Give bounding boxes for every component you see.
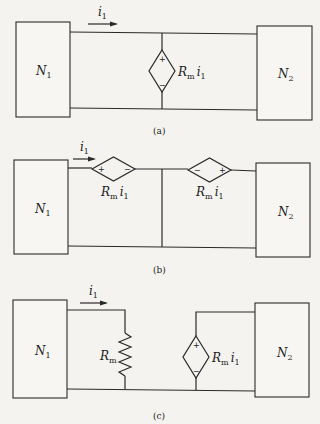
minus-sign: − [124, 165, 131, 174]
current-label: i1 [89, 284, 98, 300]
current-label: i1 [98, 5, 107, 21]
plus-sign: + [159, 55, 166, 64]
source-label: Rmi1 [177, 65, 206, 81]
resistor-label: Rm [99, 349, 117, 365]
figure-c: N1 N2 + − Rmi1 Rm i1 (c) [13, 284, 309, 421]
figure-a: N1 N2 + − Rmi1 i1 (a) [16, 5, 312, 136]
arrow-head-icon [100, 301, 108, 306]
minus-sign: − [159, 81, 166, 90]
caption-b: (b) [153, 265, 166, 275]
caption-c: (c) [153, 411, 165, 421]
top-wire-left [67, 310, 125, 333]
arrow-head-icon [88, 157, 96, 162]
bottom-wire [70, 108, 257, 110]
top-wire-right [196, 312, 255, 336]
figure-b: N1 N2 + − − + Rmi1 Rmi1 i1 (b) [14, 140, 310, 275]
source-label-right: Rmi1 [195, 185, 224, 201]
arrow-head-icon [110, 22, 118, 27]
plus-sign: + [219, 166, 226, 175]
top-wire-right [231, 170, 256, 171]
plus-sign: + [98, 165, 105, 174]
bottom-wire [67, 389, 255, 391]
top-wire [70, 32, 257, 34]
minus-sign: − [194, 166, 201, 175]
plus-sign: + [193, 341, 200, 350]
caption-a: (a) [153, 126, 165, 136]
source-label-left: Rmi1 [100, 185, 129, 201]
resistor-zigzag [119, 333, 131, 376]
current-label: i1 [80, 140, 89, 156]
circuit-diagrams: N1 N2 + − Rmi1 i1 (a) N1 N2 + − − + Rmi1… [0, 0, 320, 424]
minus-sign: − [193, 367, 200, 376]
source-label: Rmi1 [211, 351, 240, 367]
